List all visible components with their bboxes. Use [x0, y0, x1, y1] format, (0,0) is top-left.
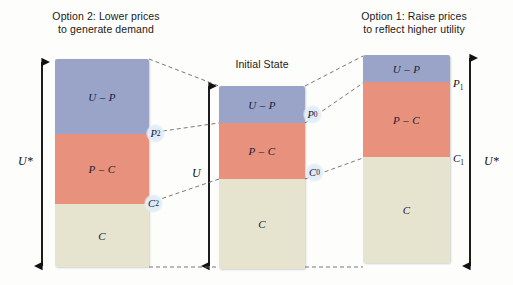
axis-label-initial: U [192, 166, 201, 181]
node-c2-sub: 2 [155, 199, 159, 208]
segment-c: C [363, 157, 450, 263]
segment-p-minus-c: P – C [363, 82, 450, 157]
segment-label: P – C [363, 114, 450, 126]
node-c0-base: C [309, 167, 316, 178]
segment-label: U – P [363, 63, 450, 75]
node-c0-sub: 0 [316, 168, 320, 177]
option-1-bar: U – P P – C C [363, 55, 450, 263]
side-label-p1-base: P [453, 77, 460, 89]
segment-p-minus-c: P – C [55, 134, 149, 204]
side-label-p1: P1 [453, 77, 463, 92]
node-p2: P2 [146, 124, 165, 143]
side-label-c1-sub: 1 [460, 158, 464, 167]
segment-label: P – C [55, 163, 149, 175]
side-label-p1-sub: 1 [460, 83, 464, 92]
segment-label: P – C [219, 145, 305, 157]
diagram-canvas: Option 2: Lower prices to generate deman… [0, 0, 513, 285]
side-label-c1: C1 [453, 152, 464, 167]
segment-u-minus-p: U – P [55, 59, 149, 134]
axis-label-option1: U* [484, 154, 499, 169]
segment-u-minus-p: U – P [363, 55, 450, 82]
node-p0-sub: 0 [314, 110, 318, 119]
segment-c: C [55, 204, 149, 267]
node-p0: P0 [303, 105, 322, 124]
connector-initial-to-option1 [305, 56, 363, 267]
initial-state-bar: U – P P – C C [219, 86, 305, 269]
segment-p-minus-c: P – C [219, 123, 305, 179]
segment-label: C [55, 230, 149, 242]
node-c0: C0 [305, 163, 324, 182]
node-p2-sub: 2 [157, 129, 161, 138]
node-c2-base: C [148, 198, 155, 209]
segment-label: U – P [219, 99, 305, 111]
segment-label: C [219, 218, 305, 230]
node-c2: C2 [144, 194, 163, 213]
segment-u-minus-p: U – P [219, 86, 305, 123]
segment-c: C [219, 179, 305, 269]
segment-label: U – P [55, 91, 149, 103]
option-2-bar: U – P P – C C [55, 59, 149, 267]
axis-label-option2: U* [18, 154, 33, 169]
segment-label: C [363, 204, 450, 216]
